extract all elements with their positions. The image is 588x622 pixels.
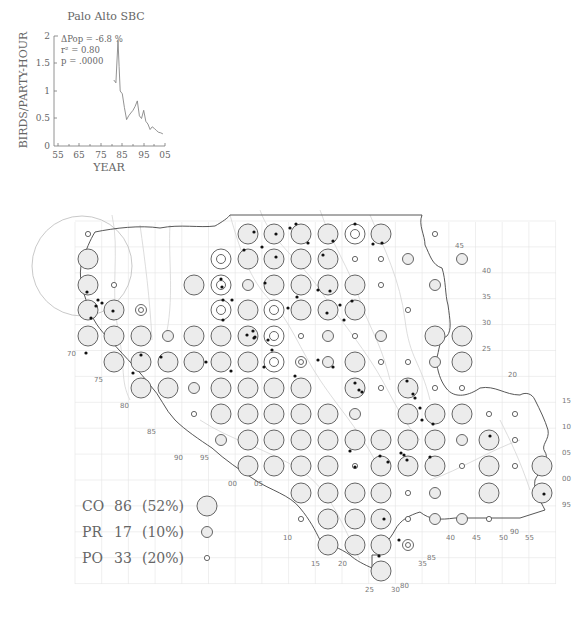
observation-dot: [266, 338, 269, 341]
observation-dot: [159, 355, 162, 358]
observation-dot: [274, 255, 277, 258]
abundance-circle: [352, 333, 357, 338]
svg-text:25: 25: [365, 586, 374, 594]
observation-dot: [353, 381, 356, 384]
svg-text:1.5: 1.5: [36, 58, 51, 68]
abundance-circle: [371, 483, 391, 503]
abundance-circle: [238, 224, 258, 244]
observation-dot: [131, 371, 134, 374]
observation-dot: [350, 299, 353, 302]
svg-text:85: 85: [116, 150, 128, 160]
abundance-circle: [512, 463, 517, 468]
svg-text:20: 20: [338, 560, 347, 568]
abundance-circle: [479, 430, 499, 450]
legend-code: CO: [82, 498, 104, 514]
abundance-circle: [345, 352, 365, 372]
observation-dot: [420, 418, 423, 421]
abundance-circle: [318, 509, 338, 529]
abundance-circle: [318, 456, 338, 476]
abundance-circle: [238, 300, 258, 320]
abundance-circle: [345, 275, 365, 295]
abundance-circle: [406, 543, 411, 548]
abundance-circle: [104, 352, 124, 372]
abundance-circle: [264, 275, 284, 295]
abundance-circle: [405, 516, 410, 521]
abundance-circle: [78, 326, 98, 346]
abundance-circle: [291, 300, 311, 320]
abundance-circle: [270, 332, 279, 341]
abundance-circle: [459, 463, 464, 468]
medium-circle-icon: [194, 519, 220, 545]
abundance-circle: [371, 224, 391, 244]
svg-text:55: 55: [52, 150, 64, 160]
abundance-circle: [378, 256, 383, 261]
x-tick-labels: 55 65 75 85 95 05: [52, 150, 171, 160]
abundance-circle: [163, 331, 174, 342]
abundance-circle: [378, 282, 383, 287]
abundance-circle: [298, 516, 303, 521]
abundance-circle: [323, 331, 334, 342]
trend-line: [114, 40, 163, 133]
observation-dot: [94, 304, 97, 307]
abundance-circle: [371, 430, 391, 450]
observation-dot: [221, 298, 224, 301]
abundance-circle: [211, 326, 231, 346]
abundance-circle: [264, 404, 284, 424]
stats-annotation: ΔPop = -6.8 % r² = 0.80 p = .0000: [61, 34, 123, 66]
svg-text:0: 0: [44, 141, 50, 151]
abundance-circle: [299, 360, 304, 365]
abundance-circle: [270, 358, 279, 367]
svg-text:65: 65: [73, 150, 85, 160]
abundance-circle: [291, 430, 311, 450]
abundance-circle: [425, 326, 445, 346]
observation-dot: [413, 396, 416, 399]
abundance-circle: [432, 385, 437, 390]
observation-dot: [204, 360, 207, 363]
abundance-circle: [78, 249, 98, 269]
abundance-circle: [430, 357, 441, 368]
abundance-circle: [238, 430, 258, 450]
abundance-circle: [430, 488, 441, 499]
abundance-circle: [378, 359, 383, 364]
observation-dot: [331, 365, 334, 368]
abundance-circle: [216, 435, 227, 446]
abundance-circle: [371, 509, 391, 529]
abundance-circle: [318, 535, 338, 555]
abundance-circle: [291, 378, 311, 398]
svg-text:2: 2: [44, 31, 50, 41]
svg-text:35: 35: [482, 293, 491, 301]
abundance-circle: [405, 359, 410, 364]
abundance-circle: [398, 404, 418, 424]
abundance-circle: [291, 224, 311, 244]
abundance-circle: [270, 306, 279, 315]
abundance-circle: [111, 282, 116, 287]
svg-text:20: 20: [508, 371, 517, 379]
observation-dot: [96, 298, 99, 301]
svg-text:00: 00: [228, 480, 237, 488]
observation-dot: [262, 365, 265, 368]
abundance-circle: [403, 254, 414, 265]
svg-text:70: 70: [67, 350, 76, 358]
observation-dot: [542, 492, 545, 495]
abundance-circle: [298, 333, 303, 338]
observation-dot: [431, 422, 434, 425]
observation-dot: [488, 434, 491, 437]
observation-dot: [428, 455, 431, 458]
abundance-circle: [378, 385, 383, 390]
svg-text:00: 00: [562, 475, 571, 483]
legend: CO 86 (52%) PR 17 (10%) PO 33 (20%): [82, 498, 232, 576]
observation-dot: [405, 379, 408, 382]
abundance-circle: [318, 224, 338, 244]
y-axis-label: BIRDS/PARTY-HOUR: [17, 31, 30, 148]
svg-text:p = .0000: p = .0000: [61, 56, 103, 66]
observation-dot: [294, 222, 297, 225]
svg-text:10: 10: [283, 534, 292, 542]
abundance-circle: [486, 516, 491, 521]
abundance-circle: [217, 306, 226, 315]
observation-dot: [377, 554, 380, 557]
abundance-circle: [345, 483, 365, 503]
observation-dot: [386, 460, 389, 463]
abundance-circle: [158, 352, 178, 372]
abundance-circle: [371, 535, 391, 555]
small-circle-icon: [194, 545, 220, 571]
